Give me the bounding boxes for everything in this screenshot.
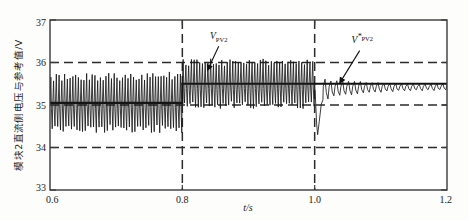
x-tick-label-0.6: 0.6 [46, 194, 59, 205]
y-axis-tick-labels: 3334353637 [36, 17, 46, 193]
x-tick-label-1.2: 1.2 [440, 194, 453, 205]
x-tick-label-0.8: 0.8 [176, 194, 189, 205]
y-tick-label-33: 33 [36, 182, 46, 193]
y-tick-label-35: 35 [36, 100, 46, 111]
y-tick-label-36: 36 [36, 57, 46, 68]
y-axis-title: 模块2直流侧电压与参考值/V [13, 39, 24, 170]
chart-figure: 0.60.81.01.2 3334353637 t/s 模块2直流侧电压与参考值… [0, 0, 468, 220]
x-tick-label-1.0: 1.0 [308, 194, 321, 205]
y-tick-label-37: 37 [36, 17, 46, 28]
y-tick-label-34: 34 [36, 142, 46, 153]
x-axis-title: t/s [243, 202, 253, 213]
voltage-waveform-chart: 0.60.81.01.2 3334353637 t/s 模块2直流侧电压与参考值… [0, 0, 468, 220]
